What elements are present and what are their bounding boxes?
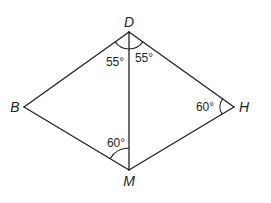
vertex-label-M: M <box>123 173 135 189</box>
angle-label-BDM: 55° <box>106 55 124 69</box>
segment-DB <box>24 32 129 107</box>
segment-DH <box>129 32 234 107</box>
segment-HM <box>129 107 234 170</box>
angle-label-DHM: 60° <box>196 100 214 114</box>
vertex-label-H: H <box>239 99 250 115</box>
angle-label-BMD: 60° <box>107 136 125 150</box>
angle-arc-DHM <box>220 99 223 114</box>
vertex-label-B: B <box>10 99 19 115</box>
vertex-label-D: D <box>124 14 134 30</box>
angle-label-MDH: 55° <box>135 51 153 65</box>
angle-arc-BDM <box>115 42 129 49</box>
angle-arc-MDH <box>129 42 143 49</box>
geometry-figure: D B H M 55° 55° 60° 60° <box>0 0 271 203</box>
